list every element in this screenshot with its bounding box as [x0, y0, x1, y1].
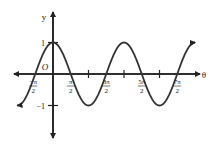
x-axis-label: θ — [202, 70, 206, 80]
x-tick-label-denominator: 2 — [140, 87, 144, 95]
x-tick-label-denominator: 2 — [32, 87, 36, 95]
x-tick-label-denominator: 2 — [69, 87, 73, 95]
x-tick-label-numerator: −π — [30, 78, 38, 86]
origin-label: O — [42, 62, 49, 72]
x-tick-label-numerator: 7π — [174, 78, 182, 86]
y-tick-label: 1 — [41, 39, 45, 48]
x-tick-label-numerator: π — [69, 78, 73, 86]
x-tick-label-numerator: 5π — [138, 78, 146, 86]
x-tick-label-numerator: 3π — [103, 78, 111, 86]
y-tick-label: −1 — [36, 102, 45, 111]
axis-labels: yθO1−1−π2π23π25π27π2 — [29, 12, 206, 111]
y-axis-label: y — [42, 12, 47, 22]
axes — [14, 12, 200, 138]
x-tick-label-denominator: 2 — [176, 87, 180, 95]
cosine-graph: yθO1−1−π2π23π25π27π2 — [0, 0, 214, 146]
x-tick-label-denominator: 2 — [105, 87, 109, 95]
